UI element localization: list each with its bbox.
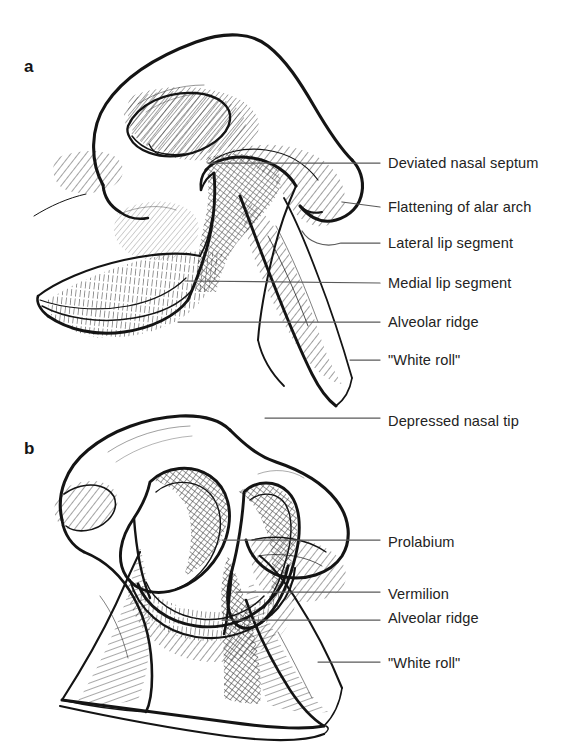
label-depressed-nasal-tip: Depressed nasal tip xyxy=(388,414,519,429)
anatomical-line-drawing xyxy=(0,0,576,751)
label-alveolar-ridge-b: Alveolar ridge xyxy=(388,611,479,626)
label-vermilion: Vermilion xyxy=(388,587,449,602)
panel-letter-b: b xyxy=(24,440,34,457)
label-flattening-of-alar-arch: Flattening of alar arch xyxy=(388,200,531,215)
label-medial-lip-segment: Medial lip segment xyxy=(388,276,511,291)
label-prolabium: Prolabium xyxy=(388,535,455,550)
figure-canvas: a b Deviated nasal septumFlattening of a… xyxy=(0,0,576,751)
label-deviated-nasal-septum: Deviated nasal septum xyxy=(388,156,539,171)
leader-line-flattening-of-alar-arch xyxy=(342,202,380,207)
panel-b-artwork xyxy=(48,416,360,740)
panel-a-artwork xyxy=(34,35,363,406)
label-white-roll: "White roll" xyxy=(388,353,460,368)
label-white-roll-b: "White roll" xyxy=(388,656,460,671)
label-lateral-lip-segment: Lateral lip segment xyxy=(388,236,513,251)
label-alveolar-ridge: Alveolar ridge xyxy=(388,315,479,330)
leader-line-lateral-lip-segment xyxy=(302,231,380,245)
panel-letter-a: a xyxy=(24,58,33,75)
